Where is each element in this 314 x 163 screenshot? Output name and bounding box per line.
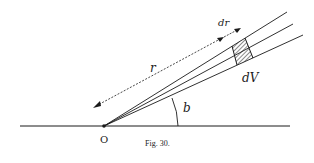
label-radius: r xyxy=(150,61,157,75)
cone-center-ray xyxy=(104,24,293,126)
radius-arrowhead-inner xyxy=(93,101,101,108)
figure-diagram: r dr dV b O Fig. 30. xyxy=(0,0,314,163)
radius-arrowhead-outer xyxy=(217,37,224,42)
radius-arrow-line xyxy=(96,38,222,106)
label-radial-increment: dr xyxy=(218,17,230,28)
cone-lower-ray xyxy=(104,35,303,126)
dr-arrowhead xyxy=(234,28,241,33)
angle-arc xyxy=(172,98,178,126)
label-volume-element: dV xyxy=(242,71,260,85)
origin-point xyxy=(102,124,106,128)
figure-caption: Fig. 30. xyxy=(145,139,170,148)
label-angle: b xyxy=(183,101,191,115)
volume-element-shading xyxy=(232,38,253,65)
cone-upper-ray xyxy=(104,12,287,126)
label-origin: O xyxy=(100,134,108,145)
